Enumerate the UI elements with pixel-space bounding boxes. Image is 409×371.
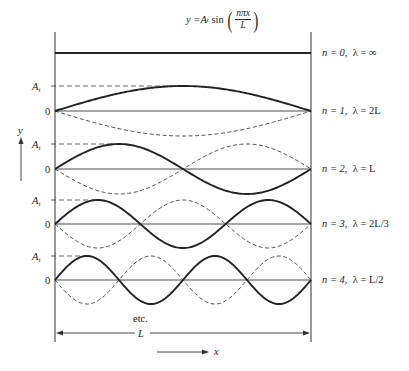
equation-numerator: nπx: [235, 8, 251, 20]
mode-n: n = 2,: [322, 163, 347, 174]
amplitude-label: At: [31, 139, 41, 152]
zero-label: 0: [45, 275, 50, 286]
mode-label-1: n = 1, λ = 2L: [322, 105, 381, 116]
wave-inverted-dashed: [55, 111, 311, 136]
length-arrowhead-left-icon: [56, 331, 63, 336]
mode-n: n = 0,: [322, 47, 347, 58]
mode-4: At0: [31, 251, 311, 305]
zero-label: 0: [45, 164, 50, 175]
length-label: L: [137, 328, 144, 339]
etc-label: etc.: [133, 313, 148, 324]
mode-label-4: n = 4, λ = L/2: [322, 274, 384, 285]
zero-label: 0: [45, 219, 50, 230]
equation-func: sin: [209, 14, 227, 25]
equation-denominator: L: [240, 20, 245, 31]
y-arrowhead-icon: [19, 137, 24, 144]
modes-layer: At0At0At0At0: [31, 53, 311, 304]
mode-lambda: λ = 2L/3: [353, 218, 389, 229]
mode-3: At0: [31, 195, 311, 249]
mode-lambda: λ = ∞: [353, 47, 377, 58]
mode-lambda: λ = L: [353, 163, 376, 174]
amplitude-label: At: [31, 195, 41, 208]
zero-label: 0: [45, 106, 50, 117]
open-paren: (: [228, 10, 233, 30]
close-paren: ): [254, 10, 259, 30]
x-axis-label: x: [213, 346, 219, 357]
mode-n: n = 1,: [322, 105, 347, 116]
amplitude-label: At: [31, 81, 41, 94]
mode-label-0: n = 0, λ = ∞: [322, 47, 376, 58]
mode-lambda: λ = L/2: [353, 274, 384, 285]
equation-lhs: y =: [186, 14, 200, 25]
mode-n: n = 3,: [322, 218, 347, 229]
mode-1: At0: [31, 81, 311, 137]
y-axis-label: y: [17, 125, 23, 136]
mode-label-3: n = 3, λ = 2L/3: [322, 218, 389, 229]
wave-equation: y = At sin ( nπx L ): [186, 8, 260, 31]
equation-fraction: nπx L: [235, 8, 251, 31]
length-arrowhead-right-icon: [303, 331, 310, 336]
mode-n: n = 4,: [322, 274, 347, 285]
amplitude-label: At: [31, 251, 41, 264]
mode-2: At0: [31, 139, 311, 195]
x-arrowhead-icon: [202, 350, 209, 355]
mode-lambda: λ = 2L: [353, 105, 381, 116]
wave-solid: [55, 86, 311, 111]
mode-label-2: n = 2, λ = L: [322, 163, 375, 174]
